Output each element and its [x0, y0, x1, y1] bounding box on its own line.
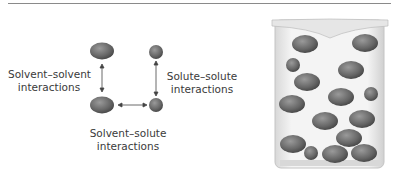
label-line: interactions [8, 81, 90, 94]
label-line: interactions [88, 140, 168, 153]
solvent-solute-label: Solvent–solute interactions [88, 127, 168, 152]
solute-solute-label: Solute–solute interactions [166, 70, 238, 95]
label-line: Solvent–solute [88, 127, 168, 140]
label-line: Solvent–solvent [8, 68, 90, 81]
beaker [272, 19, 388, 168]
solute-particle-top [149, 45, 163, 59]
solvent-particle-top [90, 43, 114, 60]
label-line: Solute–solute [166, 70, 238, 83]
label-line: interactions [166, 83, 238, 96]
solvent-particle-bottom [90, 97, 114, 114]
solute-particle-bottom [149, 98, 163, 112]
solvent-solvent-label: Solvent–solvent interactions [8, 68, 90, 93]
